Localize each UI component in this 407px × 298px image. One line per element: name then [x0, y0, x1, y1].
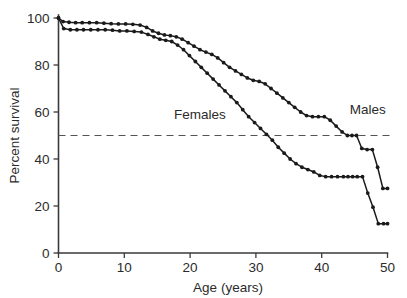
data-point-marker: [281, 96, 285, 100]
data-point-marker: [376, 165, 380, 169]
data-point-marker: [95, 21, 99, 25]
x-tick-label: 0: [55, 260, 63, 275]
data-point-marker: [193, 60, 197, 64]
data-point-marker: [386, 186, 390, 190]
x-tick-label: 50: [380, 260, 395, 275]
data-point-marker: [228, 65, 232, 69]
y-tick-label: 40: [34, 152, 49, 167]
data-point-marker: [234, 69, 238, 73]
x-axis-ticks: 01020304050: [55, 253, 395, 275]
data-point-marker: [223, 89, 227, 93]
data-point-marker: [253, 121, 257, 125]
data-point-marker: [116, 22, 120, 26]
data-point-marker: [102, 21, 106, 25]
series-annotation-group: FemalesMales: [174, 102, 386, 122]
data-point-marker: [251, 78, 255, 82]
data-point-marker: [163, 33, 167, 37]
data-point-marker: [306, 168, 310, 172]
y-tick-label: 60: [34, 105, 49, 120]
data-point-marker: [386, 222, 390, 226]
series-annotation-females: Females: [174, 107, 226, 122]
x-tick-label: 10: [117, 260, 132, 275]
series-annotation-males: Males: [350, 102, 386, 117]
data-point-marker: [205, 71, 209, 75]
data-point-marker: [124, 22, 128, 26]
data-point-marker: [118, 29, 122, 33]
data-point-marker: [62, 27, 66, 31]
data-point-marker: [247, 115, 251, 119]
data-point-marker: [245, 76, 249, 80]
data-point-marker: [265, 132, 269, 136]
data-point-marker: [340, 130, 344, 134]
data-point-marker: [96, 28, 100, 32]
data-point-marker: [80, 21, 84, 25]
data-point-marker: [157, 31, 161, 35]
y-tick-label: 0: [42, 246, 50, 261]
data-point-marker: [182, 48, 186, 52]
data-point-marker: [305, 114, 309, 118]
data-point-marker: [174, 35, 178, 39]
data-point-marker: [198, 48, 202, 52]
data-point-marker: [82, 28, 86, 32]
data-point-marker: [170, 40, 174, 44]
data-point-marker: [336, 175, 340, 179]
x-tick-label: 30: [248, 260, 263, 275]
data-point-marker: [75, 28, 79, 32]
data-point-marker: [222, 61, 226, 65]
y-axis-title: Percent survival: [7, 87, 22, 183]
data-point-marker: [68, 28, 72, 32]
data-point-marker: [109, 22, 113, 26]
data-point-marker: [287, 101, 291, 105]
data-point-marker: [211, 77, 215, 81]
data-point-marker: [312, 170, 316, 174]
data-point-marker: [275, 91, 279, 95]
data-point-marker: [192, 44, 196, 48]
data-point-marker: [186, 41, 190, 45]
data-point-marker: [240, 73, 244, 77]
data-point-marker: [317, 115, 321, 119]
data-point-marker: [361, 175, 365, 179]
data-point-marker: [370, 148, 374, 152]
data-point-marker: [376, 222, 380, 226]
data-point-marker: [176, 43, 180, 47]
data-point-marker: [241, 108, 245, 112]
data-point-marker: [366, 191, 370, 195]
data-point-marker: [300, 165, 304, 169]
data-point-marker: [328, 118, 332, 122]
y-tick-label: 100: [27, 11, 50, 26]
y-tick-label: 20: [34, 199, 49, 214]
data-point-marker: [371, 205, 375, 209]
series-females: [57, 16, 390, 190]
data-point-marker: [342, 175, 346, 179]
data-point-marker: [345, 134, 349, 138]
data-point-marker: [270, 138, 274, 142]
data-point-marker: [132, 30, 136, 34]
chart-axes: [59, 15, 388, 253]
data-point-marker: [259, 127, 263, 131]
y-tick-label: 80: [34, 58, 49, 73]
data-point-marker: [61, 20, 65, 24]
survival-curve-figure: 020406080100 01020304050 FemalesMales Ag…: [0, 0, 407, 298]
data-point-marker: [350, 134, 354, 138]
data-point-marker: [324, 175, 328, 179]
data-point-marker: [322, 115, 326, 119]
data-point-marker: [365, 148, 369, 152]
data-point-marker: [210, 53, 214, 57]
x-tick-label: 40: [314, 260, 329, 275]
data-point-marker: [294, 162, 298, 166]
data-point-marker: [288, 157, 292, 161]
data-point-marker: [360, 147, 364, 151]
data-point-marker: [318, 174, 322, 178]
data-point-marker: [57, 16, 61, 20]
data-point-marker: [199, 65, 203, 69]
data-point-marker: [138, 23, 142, 27]
data-point-marker: [74, 21, 78, 25]
x-tick-label: 20: [183, 260, 198, 275]
percent-survival-line-chart: 020406080100 01020304050 FemalesMales Ag…: [0, 0, 407, 298]
data-point-marker: [330, 175, 334, 179]
data-point-marker: [381, 186, 385, 190]
data-point-marker: [67, 20, 71, 24]
data-point-marker: [229, 95, 233, 99]
data-point-marker: [276, 145, 280, 149]
data-point-marker: [125, 29, 129, 33]
